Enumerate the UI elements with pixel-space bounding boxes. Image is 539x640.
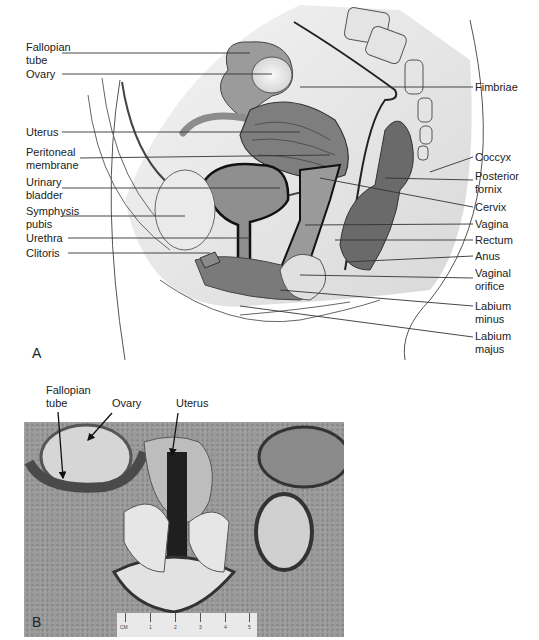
panel-letter-b: B bbox=[32, 614, 41, 630]
label-ovary: Ovary bbox=[26, 68, 55, 81]
label-labium-majus: Labium majus bbox=[475, 330, 511, 355]
label-clitoris: Clitoris bbox=[26, 247, 60, 260]
specimen-shapes bbox=[24, 422, 344, 637]
label-rectum: Rectum bbox=[475, 234, 513, 247]
label-anus: Anus bbox=[475, 250, 500, 263]
label-cervix: Cervix bbox=[475, 201, 506, 214]
ruler-tick-2: 2 bbox=[174, 624, 177, 630]
label-peritoneal-membrane: Peritoneal membrane bbox=[26, 146, 79, 171]
ruler-tick-1: 1 bbox=[149, 624, 152, 630]
photo-label-uterus: Uterus bbox=[176, 397, 208, 410]
label-posterior-fornix: Posterior fornix bbox=[475, 170, 519, 195]
label-uterus: Uterus bbox=[26, 126, 58, 139]
label-fallopian-tube: Fallopian tube bbox=[26, 41, 71, 66]
photo-label-fallopian-tube: Fallopian tube bbox=[46, 384, 91, 409]
ruler-tick-5: 5 bbox=[248, 624, 251, 630]
ruler-tick-4: 4 bbox=[224, 624, 227, 630]
centimeter-ruler: CM 1 2 3 4 5 bbox=[117, 613, 257, 637]
label-coccyx: Coccyx bbox=[475, 151, 511, 164]
panel-letter-a: A bbox=[32, 345, 41, 361]
photo-label-ovary: Ovary bbox=[112, 397, 141, 410]
label-labium-minus: Labium minus bbox=[475, 300, 511, 325]
sagittal-section-drawing bbox=[0, 0, 539, 400]
label-urethra: Urethra bbox=[26, 232, 63, 245]
label-vaginal-orifice: Vaginal orifice bbox=[475, 267, 511, 292]
ruler-tick-3: 3 bbox=[199, 624, 202, 630]
ruler-unit: CM bbox=[120, 624, 128, 630]
specimen-photograph: B bbox=[24, 422, 344, 637]
label-vagina: Vagina bbox=[475, 218, 508, 231]
label-fimbriae: Fimbriae bbox=[475, 81, 518, 94]
label-symphysis-pubis: Symphysis pubis bbox=[26, 205, 79, 230]
label-urinary-bladder: Urinary bladder bbox=[26, 176, 63, 201]
